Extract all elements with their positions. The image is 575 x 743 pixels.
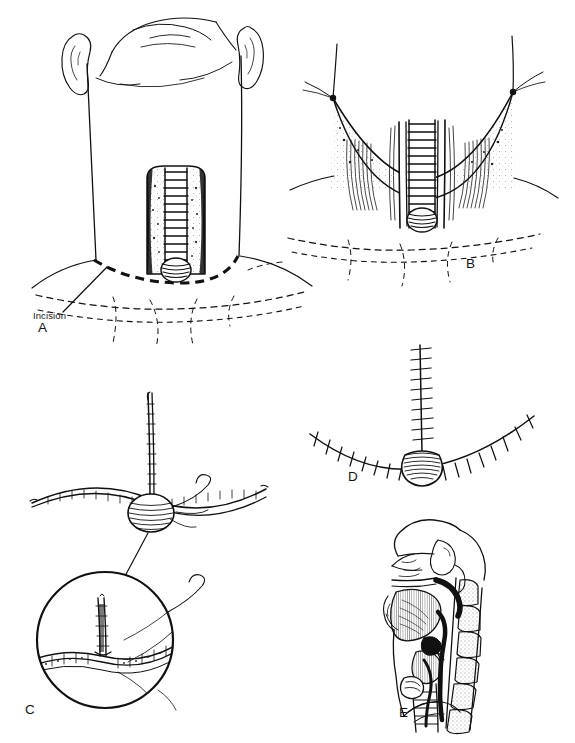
panel-b-artwork: [248, 36, 558, 286]
panel-e-artwork: [384, 520, 486, 734]
panel-c-artwork: [22, 392, 268, 710]
panel-label-a: A: [38, 320, 47, 335]
figure-artwork: [0, 0, 575, 743]
surgical-figure: Incision A B C D E: [0, 0, 575, 743]
panel-d-artwork: [310, 345, 534, 486]
panel-label-c: C: [25, 702, 35, 717]
panel-label-b: B: [466, 256, 475, 271]
panel-a-artwork: [32, 18, 312, 348]
panel-label-e: E: [399, 705, 408, 720]
panel-label-d: D: [348, 469, 358, 484]
